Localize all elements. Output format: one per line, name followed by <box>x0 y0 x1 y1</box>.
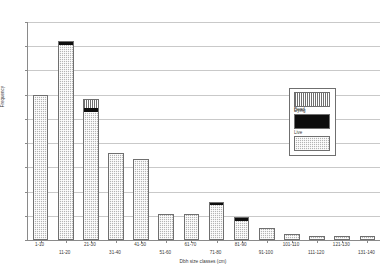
legend-swatch-checkered <box>294 136 330 151</box>
bar-segment-live <box>285 235 299 239</box>
bar-stack[interactable] <box>209 202 225 240</box>
bar-segment-live <box>335 237 349 239</box>
bar-segment-live <box>235 221 249 239</box>
bar-stack[interactable] <box>58 41 74 240</box>
bar-stack[interactable] <box>184 214 200 240</box>
bar-slot <box>78 22 103 240</box>
bar-slot <box>154 22 179 240</box>
y-axis-title: Frequency <box>0 75 5 119</box>
chart-legend: DeadDyingLive <box>289 88 336 156</box>
bar-segment-live <box>84 112 98 239</box>
bar-slot <box>254 22 279 240</box>
bar-slot <box>103 22 128 240</box>
bar-stack[interactable] <box>133 159 149 240</box>
bar-slot <box>204 22 229 240</box>
bar-segment-live <box>34 96 48 239</box>
legend-entry[interactable]: Dying <box>294 109 331 129</box>
bar-slot <box>53 22 78 240</box>
legend-label: Dying <box>294 109 331 114</box>
bar-slot <box>28 22 53 240</box>
bar-segment-dead <box>84 100 98 108</box>
bar-slot <box>129 22 154 240</box>
bar-stack[interactable] <box>158 214 174 240</box>
bar-segment-live <box>185 215 199 239</box>
bar-chart: Frequency 020406080100120140160180 1-101… <box>0 0 388 271</box>
bar-stack[interactable] <box>33 95 49 240</box>
legend-swatch-vertical-stripes <box>294 92 330 107</box>
bar-segment-live <box>310 237 324 239</box>
bar-stack[interactable] <box>83 99 99 240</box>
bar-segment-live <box>260 229 274 239</box>
bar-segment-live <box>361 237 375 239</box>
bar-slot <box>179 22 204 240</box>
legend-entry[interactable]: Dead <box>294 92 331 107</box>
bar-stack[interactable] <box>259 228 275 240</box>
x-axis-title: Dbh size classes (cm) <box>27 259 379 264</box>
bar-slot <box>229 22 254 240</box>
bar-segment-live <box>109 154 123 239</box>
bar-segment-live <box>134 160 148 239</box>
bar-slot <box>355 22 380 240</box>
y-tick-mark <box>25 240 28 241</box>
legend-label: Live <box>294 131 331 136</box>
legend-entry[interactable]: Live <box>294 131 331 151</box>
x-tick-label: 131-140 <box>342 251 388 256</box>
bar-segment-live <box>210 205 224 239</box>
legend-swatch-solid-black <box>294 114 330 129</box>
bar-segment-live <box>159 215 173 239</box>
bar-stack[interactable] <box>108 153 124 240</box>
bar-stack[interactable] <box>234 217 250 240</box>
bar-segment-live <box>59 45 73 239</box>
